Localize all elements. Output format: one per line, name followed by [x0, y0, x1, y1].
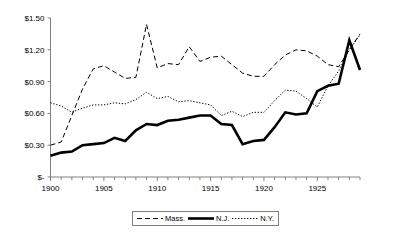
x-axis-tick-label: 1925 — [308, 184, 326, 193]
y-axis-tick-label: $- — [37, 173, 44, 182]
chart-legend: Mass.N.J.N.Y. — [132, 211, 279, 226]
x-axis-tick-label: 1915 — [202, 184, 220, 193]
y-axis-tick-label: $0.90 — [24, 78, 45, 87]
legend-item-label: Mass. — [165, 215, 185, 223]
line-chart: $-$0.30$0.60$0.90$1.20$1.50 190019051910… — [0, 0, 413, 241]
legend-item[interactable]: Mass. — [137, 214, 185, 223]
y-axis-tick-label: $1.20 — [24, 46, 45, 55]
x-axis-tick-label: 1920 — [255, 184, 273, 193]
y-axis-tick-label: $0.30 — [24, 141, 45, 150]
x-axis-tick-label: 1900 — [42, 184, 60, 193]
legend-item[interactable]: N.J. — [188, 214, 229, 223]
series-line-nj — [51, 40, 361, 156]
legend-swatch-icon — [137, 214, 163, 223]
series-line-mass — [51, 24, 361, 145]
legend-item-label: N.Y. — [260, 215, 274, 223]
legend-item-label: N.J. — [216, 215, 229, 223]
x-axis-tick-label: 1905 — [95, 184, 113, 193]
data-series-group — [51, 24, 361, 155]
y-axis: $-$0.30$0.60$0.90$1.20$1.50 — [24, 14, 50, 182]
legend-item[interactable]: N.Y. — [232, 214, 274, 223]
chart-plot-area: $-$0.30$0.60$0.90$1.20$1.50 190019051910… — [0, 0, 413, 241]
x-axis-tick-label: 1910 — [148, 184, 166, 193]
y-axis-tick-label: $1.50 — [24, 14, 45, 23]
series-line-ny — [51, 35, 361, 117]
y-axis-tick-label: $0.60 — [24, 109, 45, 118]
legend-swatch-icon — [232, 214, 258, 223]
x-axis: 190019051910191519201925 — [42, 177, 360, 193]
legend-swatch-icon — [188, 214, 214, 223]
